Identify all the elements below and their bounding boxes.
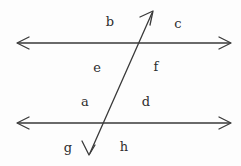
lower-parallel-line (17, 117, 231, 129)
angle-label-g: g (64, 141, 72, 154)
angle-label-h: h (120, 140, 128, 153)
transversal-bottom-arrowhead (82, 141, 95, 155)
angle-label-c: c (174, 17, 181, 30)
angle-label-b: b (106, 15, 114, 28)
upper-parallel-line (17, 37, 231, 49)
angle-label-e: e (93, 61, 101, 74)
angle-label-d: d (142, 95, 150, 108)
geometry-diagram: b c e f a d g h (0, 0, 241, 166)
angle-label-a: a (81, 95, 89, 108)
transversal-top-arrowhead (140, 11, 153, 25)
transversal-line-shaft (90, 13, 152, 153)
angle-label-f: f (154, 60, 159, 73)
transversal-line (82, 11, 153, 155)
